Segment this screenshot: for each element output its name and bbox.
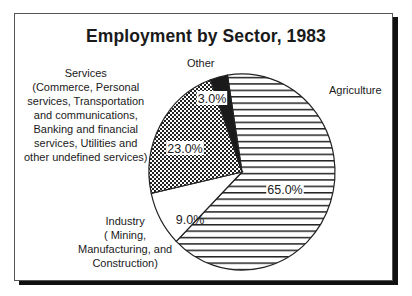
pct-label-services: 23.0% [167,142,202,156]
pct-label-other: 3.0% [198,92,227,106]
label-other: Other [187,56,215,70]
label-agriculture: Agriculture [329,83,382,97]
pct-label-agriculture: 65.0% [267,183,302,197]
label-industry: Industry ( Mining, Manufacturing, and Co… [78,214,172,270]
pct-label-industry: 9.0% [176,213,205,227]
label-services: Services (Commerce, Personal services, T… [24,66,148,164]
